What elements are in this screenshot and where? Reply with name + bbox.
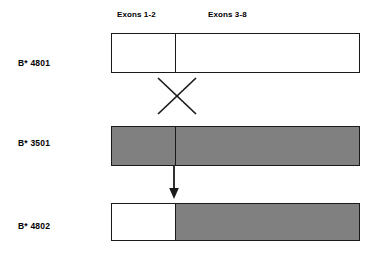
gene-segment-b3501-exons-3-8 (175, 127, 359, 165)
gene-bar-b3501 (111, 126, 360, 166)
allele-label-b4801: B* 4801 (18, 58, 50, 68)
gene-segment-b4802-exons-3-8 (175, 204, 359, 240)
crossover-x-icon (155, 76, 199, 116)
gene-bar-b4801 (111, 33, 360, 73)
recombination-diagram: Exons 1-2 Exons 3-8 B* 4801 B* 3501 B* 4… (0, 0, 374, 260)
exon-label-exons-3-8: Exons 3-8 (208, 10, 247, 19)
allele-label-b3501: B* 3501 (18, 138, 50, 148)
allele-label-b4802: B* 4802 (18, 221, 50, 231)
gene-bar-b4802 (111, 203, 360, 241)
gene-segment-b4801-exons-3-8 (175, 34, 359, 72)
gene-segment-b4801-exons-1-2 (112, 34, 175, 72)
down-arrow-icon (163, 166, 185, 200)
gene-segment-b4802-exons-1-2 (112, 204, 175, 240)
gene-segment-b3501-exons-1-2 (112, 127, 175, 165)
exon-label-exons-1-2: Exons 1-2 (117, 10, 156, 19)
